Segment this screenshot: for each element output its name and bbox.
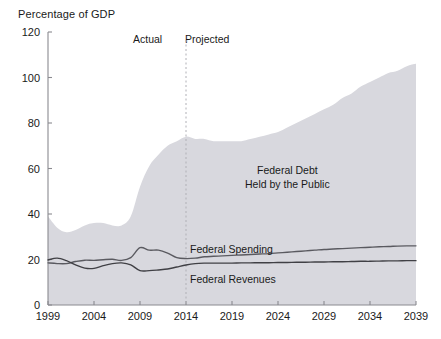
federal-debt-area xyxy=(48,64,416,305)
x-axis-tick-label: 2024 xyxy=(255,310,301,322)
x-axis-tick-label: 2004 xyxy=(71,310,117,322)
plot-area xyxy=(0,0,441,339)
y-axis-tick-label: 80 xyxy=(10,117,40,129)
y-axis-tick-label: 20 xyxy=(10,254,40,266)
federal-debt-label-line2: Held by the Public xyxy=(245,177,330,191)
x-axis-tick-label: 2034 xyxy=(347,310,393,322)
y-axis-tick-label: 40 xyxy=(10,208,40,220)
x-axis-tick-label: 2019 xyxy=(209,310,255,322)
federal-debt-label-line1: Federal Debt xyxy=(257,164,318,176)
federal-debt-label: Federal Debt Held by the Public xyxy=(245,163,330,191)
federal-spending-label: Federal Spending xyxy=(190,243,273,255)
x-axis-tick-label: 1999 xyxy=(25,310,71,322)
chart-container: Percentage of GDP Actual Projected 02040… xyxy=(0,0,441,339)
x-axis-tick-label: 2014 xyxy=(163,310,209,322)
x-axis-tick-label: 2009 xyxy=(117,310,163,322)
y-axis-tick-label: 120 xyxy=(10,26,40,38)
x-axis-tick-label: 2029 xyxy=(301,310,347,322)
y-axis-tick-label: 60 xyxy=(10,163,40,175)
y-axis-tick-label: 100 xyxy=(10,72,40,84)
x-axis-tick-label: 2039 xyxy=(393,310,439,322)
federal-revenues-label: Federal Revenues xyxy=(190,273,276,285)
